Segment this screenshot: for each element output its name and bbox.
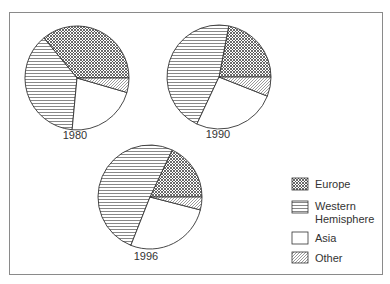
legend: Europe Western Hemisphere Asia Other (292, 178, 374, 264)
pie-1990 (167, 25, 271, 129)
pie-chart-figure: 1980 1990 1996 Europe Western Hemisphere… (0, 0, 390, 284)
legend-label-asia: Asia (315, 232, 337, 244)
legend-label-hemisphere: Hemisphere (315, 213, 374, 225)
year-label-1990: 1990 (206, 128, 230, 140)
year-label-1996: 1996 (134, 250, 158, 262)
legend-swatch-western-hemisphere (292, 201, 308, 213)
legend-swatch-asia (292, 232, 308, 244)
legend-label-western: Western (315, 200, 356, 212)
year-label-1980: 1980 (63, 129, 87, 141)
legend-label-europe: Europe (315, 178, 350, 190)
pie-1996 (98, 145, 202, 249)
legend-swatch-europe (292, 178, 308, 190)
pie-1980 (25, 26, 129, 130)
legend-label-other: Other (315, 252, 343, 264)
legend-swatch-other (292, 252, 308, 263)
